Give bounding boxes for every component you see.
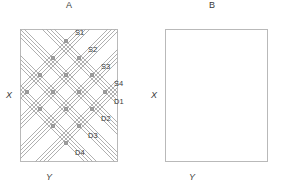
panel-a-node-label-d3: D3 [88, 131, 98, 140]
panel-a-node-label-s1: S1 [75, 28, 84, 37]
panel-a-node-label-d1: D1 [114, 97, 124, 106]
panel-a: A X Y S1S2S3S4D1D2D3D4 [0, 0, 138, 190]
panel-a-node-label-d4: D4 [75, 148, 85, 157]
panel-b-y-axis-label: Y [123, 172, 261, 182]
panel-a-node-label-d2: D2 [101, 114, 111, 123]
figure-canvas: A X Y S1S2S3S4D1D2D3D4 B X Y [0, 0, 281, 190]
panel-a-node-label-s2: S2 [88, 45, 97, 54]
panel-b: B X Y [143, 0, 281, 190]
panel-b-markers [143, 0, 281, 190]
panel-a-node-label-s4: S4 [114, 79, 123, 88]
panel-a-node-label-s3: S3 [101, 62, 110, 71]
panel-a-y-axis-label: Y [0, 172, 118, 182]
